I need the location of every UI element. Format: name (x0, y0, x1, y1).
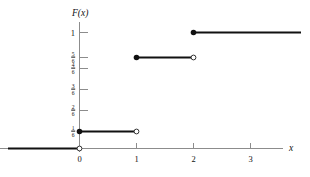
closed-endpoint-1-5over6 (134, 55, 140, 61)
axis-group (0, 22, 283, 152)
step-function-curve (8, 33, 301, 149)
x-tick-marks (80, 143, 251, 149)
closed-endpoint-0-1over6 (77, 129, 83, 135)
y-tick-marks (80, 33, 89, 132)
open-endpoint-1-1over6 (134, 129, 139, 134)
open-endpoint-2-5over6 (191, 55, 196, 60)
cdf-step-chart: F(x) x 1 6 2 6 3 6 4 6 5 6 1 0 1 2 3 (0, 0, 310, 177)
endpoint-markers (77, 30, 197, 151)
closed-endpoint-2-1 (191, 30, 197, 36)
open-endpoint-origin (77, 146, 82, 151)
chart-canvas (0, 0, 310, 177)
